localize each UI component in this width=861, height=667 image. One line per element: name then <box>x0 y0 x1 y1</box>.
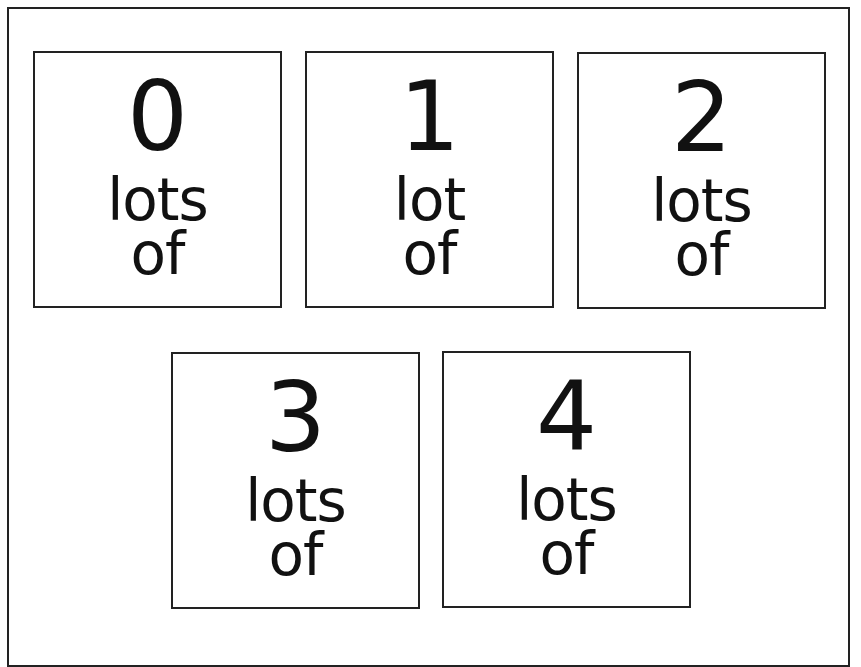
card-numeral: 2 <box>579 68 824 168</box>
card-word-of: of <box>444 525 689 583</box>
card-word-of: of <box>35 225 280 283</box>
number-card-0: 0 lots of <box>33 51 282 308</box>
card-numeral: 0 <box>35 67 280 167</box>
number-card-2: 2 lots of <box>577 52 826 309</box>
card-word-of: of <box>173 526 418 584</box>
number-card-3: 3 lots of <box>171 352 420 609</box>
card-word-of: of <box>579 226 824 284</box>
number-card-4: 4 lots of <box>442 351 691 608</box>
card-numeral: 1 <box>307 67 552 167</box>
card-word-of: of <box>307 225 552 283</box>
number-card-1: 1 lot of <box>305 51 554 308</box>
card-numeral: 4 <box>444 367 689 467</box>
card-numeral: 3 <box>173 368 418 468</box>
